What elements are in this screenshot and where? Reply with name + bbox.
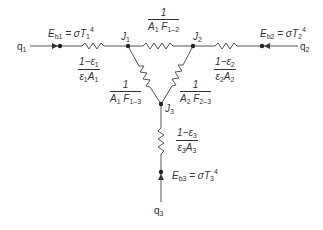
node-j3	[159, 102, 163, 106]
q1-label: q1	[17, 42, 26, 53]
resistance-space13-label: 1 A1 F1–3	[110, 80, 141, 105]
resistor-surface2	[215, 43, 237, 49]
q2-arrow-icon	[264, 43, 270, 49]
resistance-surface1-label: 1−ε1 ε1A1	[78, 57, 100, 83]
node-eb1	[58, 44, 62, 48]
q3-arrow-icon	[158, 174, 164, 180]
q2-label: q2	[300, 42, 309, 53]
node-j1	[126, 44, 130, 48]
resistor-space12	[143, 43, 173, 49]
j3-label: J3	[165, 104, 174, 115]
node-j2	[191, 44, 195, 48]
resistance-space23-label: 1 A2 F2–3	[180, 80, 211, 105]
j2-label: J2	[193, 32, 202, 43]
node-eb2	[260, 44, 264, 48]
eb2-label: Eb2 = σT24	[260, 26, 306, 40]
resistance-surface3-label: 1−ε3 ε3A3	[176, 128, 198, 154]
q3-label: q3	[154, 206, 163, 217]
j1-label: J1	[121, 32, 130, 43]
resistance-surface2-label: 1−ε2 ε2A2	[214, 57, 236, 83]
eb1-label: Eb1 = σT14	[48, 26, 94, 40]
resistor-surface1	[82, 43, 104, 49]
q1-arrow-icon	[52, 43, 58, 49]
resistor-surface3	[158, 128, 164, 154]
resistance-space12-label: 1 A1 F1–2	[148, 8, 179, 33]
node-eb3	[159, 170, 163, 174]
eb3-label: Eb3 = σT34	[172, 168, 218, 182]
